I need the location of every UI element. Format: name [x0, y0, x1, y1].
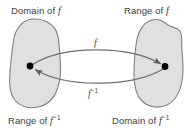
function-symbol-f: f: [166, 5, 169, 16]
label-range-of-f-inverse-text: Range of: [8, 115, 50, 126]
function-symbol-f: f: [58, 5, 61, 16]
label-range-of-f-inverse: Range of f−1: [8, 115, 61, 126]
inverse-function-diagram: Domain of f Range of f Range of f−1 Doma…: [0, 0, 194, 131]
label-domain-of-f: Domain of f: [11, 5, 61, 16]
diagram-canvas: [0, 0, 194, 131]
right-element-point: [162, 63, 169, 70]
label-domain-of-f-text: Domain of: [11, 5, 58, 16]
label-domain-of-f-inverse-text: Domain of: [112, 115, 159, 126]
label-domain-of-f-inverse: Domain of f−1: [112, 115, 169, 126]
inverse-exponent: −1: [53, 114, 61, 121]
label-range-of-f: Range of f: [124, 5, 169, 16]
left-element-point: [27, 63, 34, 70]
arrow-label-f-text: f: [94, 37, 97, 48]
label-range-of-f-text: Range of: [124, 5, 166, 16]
arrow-label-f: f: [94, 37, 97, 48]
inverse-exponent: −1: [91, 87, 98, 94]
arrow-label-f-inverse: f−1: [88, 88, 98, 99]
inverse-exponent: −1: [162, 114, 170, 121]
